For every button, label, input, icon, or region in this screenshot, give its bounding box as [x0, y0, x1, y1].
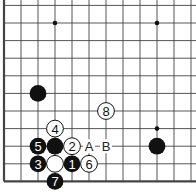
move-number-6: 6 — [85, 157, 92, 172]
move-number-7: 7 — [51, 174, 58, 189]
black-stone — [30, 85, 47, 102]
move-number-4: 4 — [51, 122, 58, 137]
mark-label-b: B — [102, 139, 111, 154]
star-point — [155, 126, 160, 131]
move-number-1: 1 — [68, 157, 75, 172]
star-point — [53, 21, 58, 26]
move-number-3: 3 — [34, 157, 41, 172]
mark-label-a: A — [85, 139, 94, 154]
black-stone — [47, 138, 64, 155]
black-stone — [149, 138, 166, 155]
move-number-2: 2 — [68, 139, 75, 154]
move-number-8: 8 — [102, 104, 109, 119]
star-point — [155, 21, 160, 26]
move-number-5: 5 — [34, 139, 41, 154]
white-stone — [47, 155, 64, 172]
go-board: AB12345678 — [0, 0, 196, 194]
